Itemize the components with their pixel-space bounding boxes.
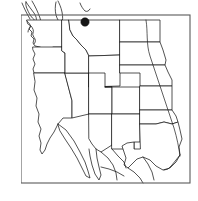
state-north-dakota [120,20,160,42]
map-canvas [0,0,198,201]
distribution-map-figure: Western United States [0,0,198,201]
state-oregon [33,47,65,73]
state-south-dakota [120,42,166,65]
occurrence-points-group [81,18,89,26]
occurrence-point-1[interactable] [81,18,89,26]
state-kansas [140,86,172,110]
